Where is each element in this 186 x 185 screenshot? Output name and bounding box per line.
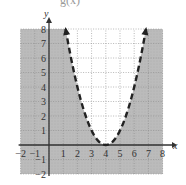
x-tick-label: 1 [61, 148, 66, 159]
y-tick-label: 3 [41, 96, 46, 107]
x-tick-label: 2 [75, 148, 80, 159]
x-tick-label: −2 [15, 148, 26, 159]
y-axis-label: y [43, 8, 49, 19]
y-tick-label: −2 [35, 169, 46, 180]
header-fragment: g(x) [60, 0, 80, 7]
x-tick-label: 8 [160, 148, 165, 159]
y-tick-label: 4 [41, 82, 46, 93]
y-tick-label: 5 [41, 67, 46, 78]
y-tick-label: 7 [41, 38, 46, 49]
x-tick-label: 5 [118, 148, 123, 159]
inequality-graph: g(x) −2−112345678−2−112345678 y x [0, 0, 186, 185]
y-tick-label: 8 [41, 24, 46, 35]
y-tick-label: 1 [41, 125, 46, 136]
x-tick-label: 7 [146, 148, 151, 159]
x-tick-label: 3 [89, 148, 94, 159]
x-tick-label: 6 [132, 148, 137, 159]
y-tick-label: 2 [41, 111, 46, 122]
plot-area: −2−112345678−2−112345678 [15, 17, 177, 180]
x-tick-label: 4 [103, 148, 108, 159]
y-tick-label: 6 [41, 53, 46, 64]
y-tick-label: −1 [35, 154, 46, 165]
x-axis-label: x [172, 140, 178, 151]
